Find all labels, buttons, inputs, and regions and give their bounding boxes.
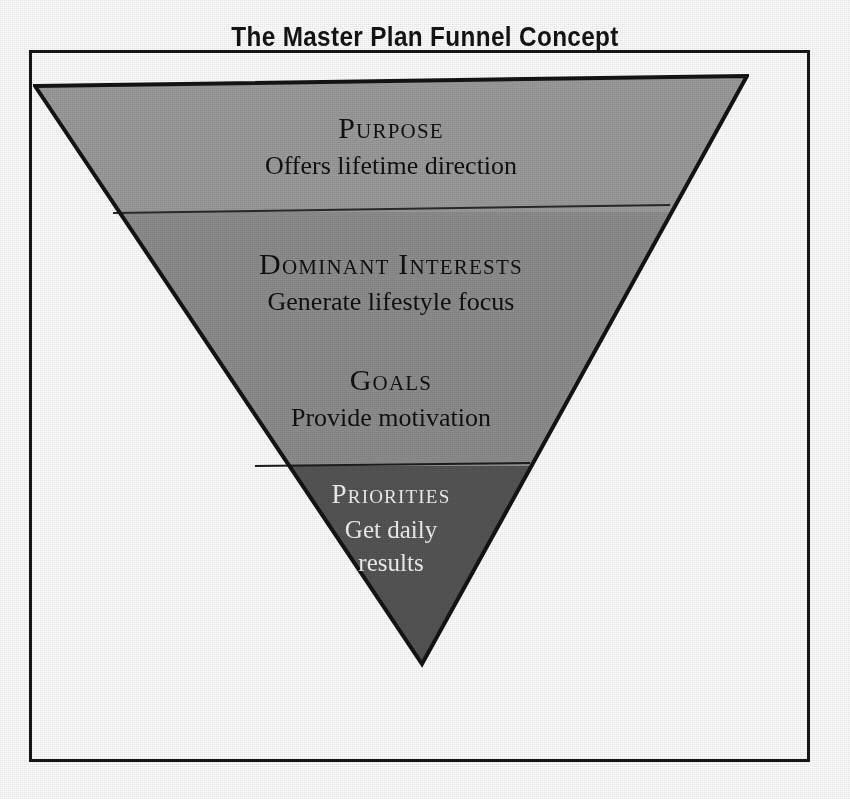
- funnel-shape: [33, 74, 749, 671]
- page-title: The Master Plan Funnel Concept: [43, 22, 808, 53]
- funnel-diagram: Purpose Offers lifetime direction Domina…: [33, 74, 749, 671]
